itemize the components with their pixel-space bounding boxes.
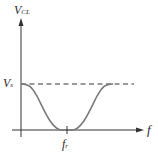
y-axis [19,18,24,137]
y-axis-arrow-icon [19,18,24,26]
x-axis-arrow-icon [136,128,144,133]
voltage-frequency-plot [0,0,158,153]
response-curve [21,84,113,130]
fr-label: fr [62,137,68,152]
vs-label: Vs [3,76,13,91]
y-axis-label: VCL [14,3,30,18]
x-axis-label: f [147,122,151,138]
